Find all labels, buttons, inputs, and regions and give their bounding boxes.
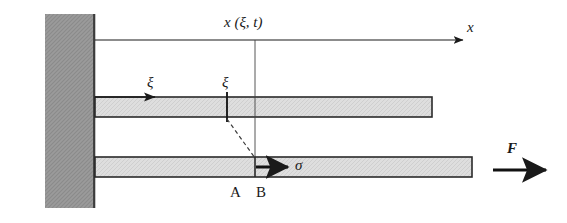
position-function-label: x (ξ, t): [224, 15, 263, 30]
reference-bar: [95, 97, 432, 117]
stress-label: σ: [295, 158, 302, 173]
displacement-dashed-line: [227, 119, 255, 158]
diagram-canvas: [0, 0, 567, 223]
point-a-label: A: [230, 185, 241, 200]
rigid-wall: [45, 14, 95, 208]
point-b-label: B: [256, 185, 266, 200]
x-axis-label: x: [467, 20, 474, 35]
xi-arrow-label: ξ: [147, 75, 153, 90]
mechanics-diagram: x x (ξ, t) ξ ξ σ F A B: [0, 0, 567, 223]
force-label: F: [507, 141, 517, 156]
xi-tick-label: ξ: [222, 75, 228, 90]
